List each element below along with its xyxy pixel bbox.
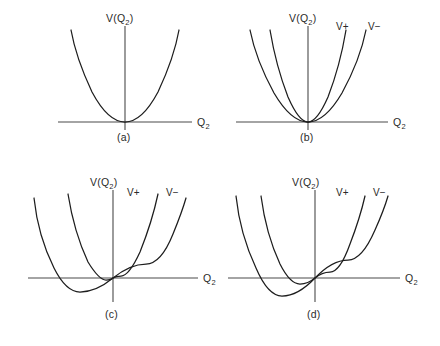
x-axis-label: Q2 — [203, 272, 216, 287]
panel-a-plot: V(Q2) Q2 (a) — [40, 8, 220, 168]
x-axis-label: Q2 — [393, 116, 406, 131]
figure-root: V(Q2) Q2 (a) V(Q2) Q2 V+ V− (b) V(Q2) Q2… — [0, 0, 440, 346]
y-axis-label: V(Q2) — [106, 12, 133, 27]
panel-c-plot: V(Q2) Q2 V+ V− (c) — [28, 172, 238, 340]
panel-caption-a: (a) — [117, 131, 130, 143]
x-axis-label: Q2 — [405, 272, 418, 287]
panel-b: V(Q2) Q2 V+ V− (b) — [228, 8, 428, 168]
curve-label-v-minus: V− — [373, 187, 386, 198]
panel-caption-d: (d) — [307, 308, 320, 320]
curve-label-v-plus: V+ — [336, 187, 349, 198]
curve-v-plus — [261, 196, 365, 284]
panel-a: V(Q2) Q2 (a) — [40, 8, 220, 168]
y-axis-label: V(Q2) — [289, 12, 316, 27]
y-axis-label: V(Q2) — [292, 176, 319, 191]
curve-label-v-minus: V− — [368, 21, 381, 32]
panel-d: V(Q2) Q2 V+ V− (d) — [228, 172, 440, 340]
y-axis-label: V(Q2) — [90, 176, 117, 191]
panel-caption-b: (b) — [300, 131, 313, 143]
x-axis-label: Q2 — [197, 116, 210, 131]
panel-d-plot: V(Q2) Q2 V+ V− (d) — [228, 172, 440, 340]
curve-label-v-plus: V+ — [127, 187, 140, 198]
curve-label-v-minus: V− — [166, 187, 179, 198]
panel-b-plot: V(Q2) Q2 V+ V− (b) — [228, 8, 428, 168]
panel-c: V(Q2) Q2 V+ V− (c) — [28, 172, 238, 340]
panel-caption-c: (c) — [105, 308, 118, 320]
curve-label-v-plus: V+ — [336, 21, 349, 32]
